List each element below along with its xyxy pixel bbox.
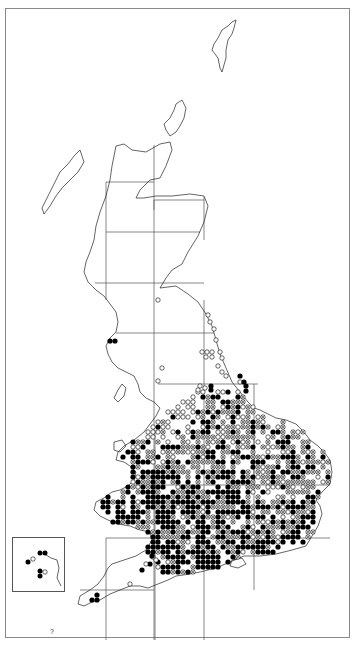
channel-islands-inset — [12, 537, 65, 592]
record-dots — [89, 298, 330, 603]
corner-mark: ? — [50, 628, 54, 635]
inset-map — [13, 538, 64, 591]
